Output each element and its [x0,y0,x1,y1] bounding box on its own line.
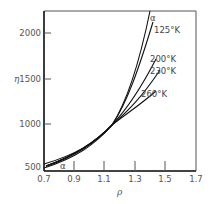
y-tick-label: 500 [25,162,41,172]
curve-label-alpha: α [150,13,156,23]
x-tick-label: 0.9 [67,174,81,184]
y-tick-label: 2000 [19,28,41,38]
x-tick-label: 1.7 [189,174,203,184]
y-ticks: 2000 1500 1000 500 [19,28,51,172]
chart: 2000 1500 1000 500 0.7 0.9 1.1 1.3 1.5 1… [0,0,214,204]
curve-label-260K: 260°K [141,89,167,99]
y-tick-label: 1000 [19,119,41,129]
plot-frame [44,11,196,171]
y-axis-title: η [14,74,20,84]
x-tick-label: 0.7 [37,174,51,184]
x-tick-label: 1.3 [128,174,142,184]
curve-230K [46,70,160,166]
curve-label-125K: 125°K [154,25,180,35]
x-tick-label: 1.1 [97,174,111,184]
curve-alpha [44,11,150,168]
curve-label-200K: 200°K [150,54,176,64]
curve-260K [46,91,156,166]
curve-200K [46,59,156,166]
x-tick-label: 1.5 [158,174,172,184]
curve-label-230K: 230°K [150,66,176,76]
x-axis-title: ρ [116,187,123,197]
curve-label-alpha-bottom: α [60,161,66,171]
y-tick-label: 1500 [19,74,41,84]
